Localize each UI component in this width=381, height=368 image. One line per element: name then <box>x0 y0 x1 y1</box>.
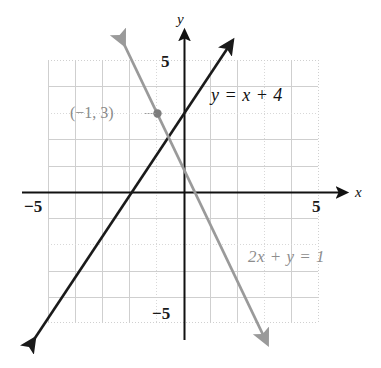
equation-label-gray: 2x + y = 1 <box>248 248 325 265</box>
y-axis-label: y <box>177 12 184 27</box>
axis-lines <box>22 33 344 340</box>
y-tick-positive-5: 5 <box>161 53 170 70</box>
coordinate-plane-svg <box>0 0 381 368</box>
x-tick-positive-5: 5 <box>312 198 321 215</box>
x-axis-label: x <box>355 185 362 200</box>
equation-label-dark: y = x + 4 <box>211 86 283 104</box>
intersection-point-label: (−1, 3) <box>70 105 114 121</box>
y-tick-negative-5: −5 <box>152 305 170 322</box>
graph-figure: x y 5 −5 −5 5 (−1, 3) y = x + 4 2x + y =… <box>0 0 381 368</box>
x-tick-negative-5: −5 <box>24 198 42 215</box>
